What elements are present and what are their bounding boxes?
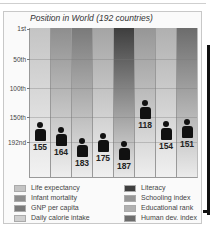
value-label: 118 bbox=[134, 120, 156, 130]
legend-item-literacy: Literacy bbox=[124, 184, 166, 193]
column-human-dev-index bbox=[176, 28, 197, 177]
top-divider bbox=[0, 3, 206, 4]
y-tick-label-100th: 100th bbox=[3, 85, 26, 92]
legend-label: GNP per capita bbox=[31, 204, 79, 211]
y-tick-50th bbox=[27, 59, 30, 60]
legend-label: Human dev. index bbox=[141, 214, 197, 221]
y-tick-1st bbox=[27, 29, 30, 30]
legend-swatch bbox=[14, 205, 26, 212]
person-icon-head bbox=[100, 133, 106, 139]
value-label: 155 bbox=[29, 142, 51, 152]
y-tick-100th bbox=[27, 88, 30, 89]
marker-educational-rank: 154 bbox=[159, 121, 173, 151]
legend-item-infant-mortality: Infant mortality bbox=[14, 194, 77, 203]
page-edge-bar bbox=[207, 45, 210, 215]
person-icon-body bbox=[35, 129, 46, 141]
legend-label: Infant mortality bbox=[31, 194, 77, 201]
legend-swatch bbox=[14, 195, 26, 202]
value-label: 187 bbox=[113, 161, 135, 171]
gridline-150th bbox=[29, 117, 197, 118]
person-icon-body bbox=[140, 107, 151, 119]
legend-item-human-dev-index: Human dev. index bbox=[124, 214, 197, 223]
value-label: 164 bbox=[50, 147, 72, 157]
y-tick-label-1st: 1st bbox=[3, 25, 26, 32]
person-icon-body bbox=[98, 140, 109, 152]
legend-item-educational-rank: Educational rank bbox=[124, 204, 193, 213]
page-edge-bar-foot bbox=[203, 210, 210, 213]
y-tick-label-50th: 50th bbox=[3, 56, 26, 63]
legend-swatch bbox=[124, 205, 136, 212]
person-icon-body bbox=[182, 126, 193, 138]
marker-daily-calorie-intake: 175 bbox=[96, 133, 110, 163]
y-tick-label-150th: 150th bbox=[3, 114, 26, 121]
person-icon-head bbox=[37, 122, 43, 128]
person-icon-head bbox=[163, 121, 169, 127]
column-educational-rank bbox=[155, 28, 176, 177]
legend-item-gnp-per-capita: GNP per capita bbox=[14, 204, 79, 213]
column-life-expectancy bbox=[29, 28, 50, 177]
gridline-50th bbox=[29, 59, 197, 60]
person-icon-body bbox=[77, 145, 88, 157]
y-tick-150th bbox=[27, 117, 30, 118]
marker-schooling-index: 118 bbox=[138, 100, 152, 130]
marker-infant-mortality: 164 bbox=[54, 127, 68, 157]
marker-gnp-per-capita: 183 bbox=[75, 138, 89, 168]
marker-literacy: 187 bbox=[117, 141, 131, 171]
value-label: 154 bbox=[155, 141, 177, 151]
legend-label: Life expectancy bbox=[31, 184, 80, 191]
legend-label: Daily calorie intake bbox=[31, 214, 90, 221]
legend-item-schooling-index: Schooling index bbox=[124, 194, 190, 203]
person-icon-head bbox=[121, 141, 127, 147]
person-icon-body bbox=[161, 128, 172, 140]
legend-item-daily-calorie-intake: Daily calorie intake bbox=[14, 214, 90, 223]
person-icon-body bbox=[56, 134, 67, 146]
legend-swatch bbox=[124, 195, 136, 202]
y-tick-label-192nd: 192nd bbox=[3, 139, 26, 146]
legend-label: Literacy bbox=[141, 184, 166, 191]
person-icon-head bbox=[184, 119, 190, 125]
legend-label: Educational rank bbox=[141, 204, 193, 211]
legend-label: Schooling index bbox=[141, 194, 190, 201]
gridline-100th bbox=[29, 88, 197, 89]
legend-swatch bbox=[124, 215, 136, 222]
legend-swatch bbox=[14, 185, 26, 192]
legend-swatch bbox=[124, 185, 136, 192]
value-label: 183 bbox=[71, 158, 93, 168]
chart-title: Position in World (192 countries) bbox=[30, 13, 153, 23]
person-icon-head bbox=[58, 127, 64, 133]
marker-human-dev-index: 151 bbox=[180, 119, 194, 149]
legend-swatch bbox=[14, 215, 26, 222]
legend-item-life-expectancy: Life expectancy bbox=[14, 184, 80, 193]
value-label: 175 bbox=[92, 153, 114, 163]
marker-life-expectancy: 155 bbox=[33, 122, 47, 152]
person-icon-head bbox=[79, 138, 85, 144]
person-icon-body bbox=[119, 148, 130, 160]
value-label: 151 bbox=[176, 139, 198, 149]
person-icon-head bbox=[142, 100, 148, 106]
